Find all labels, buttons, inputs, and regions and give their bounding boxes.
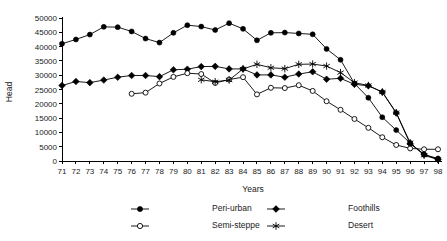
y-axis: 0500010000150002000025000300003500040000… — [35, 14, 62, 166]
data-point — [310, 88, 315, 93]
x-tick-label: 77 — [141, 167, 150, 176]
legend-marker-filled-circle — [137, 206, 142, 211]
data-point — [87, 79, 94, 86]
data-point — [352, 116, 357, 121]
x-tick-label: 73 — [85, 167, 94, 176]
x-tick-label: 82 — [211, 167, 220, 176]
x-tick-label: 94 — [378, 167, 387, 176]
y-tick-label: 15000 — [35, 114, 58, 123]
x-tick-label: 93 — [364, 167, 373, 176]
data-point — [282, 30, 287, 35]
data-point — [100, 77, 107, 84]
x-tick-label: 92 — [350, 167, 359, 176]
y-tick-label: 30000 — [35, 71, 58, 80]
x-tick-label: 91 — [336, 167, 345, 176]
data-point — [171, 74, 176, 79]
data-point — [422, 147, 427, 152]
data-point — [171, 30, 176, 35]
data-point — [114, 74, 121, 81]
x-tick-label: 76 — [127, 167, 136, 176]
x-tick-label: 84 — [239, 167, 248, 176]
data-point — [296, 83, 301, 88]
data-point — [324, 99, 329, 104]
x-tick-label: 87 — [280, 167, 289, 176]
data-point — [254, 61, 260, 68]
data-point — [185, 71, 190, 76]
data-point — [170, 66, 177, 73]
y-tick-label: 45000 — [35, 28, 58, 37]
legend-item-desert: Desert — [267, 220, 374, 230]
series-line — [132, 73, 438, 149]
line-chart: 0500010000150002000025000300003500040000… — [0, 0, 447, 241]
y-tick-label: 35000 — [35, 57, 58, 66]
data-point — [241, 75, 246, 80]
data-point — [338, 107, 343, 112]
x-tick-label: 75 — [113, 167, 122, 176]
series-line — [62, 66, 438, 159]
data-point — [185, 23, 190, 28]
x-tick-label: 71 — [58, 167, 67, 176]
data-point — [241, 26, 246, 31]
x-tick-label: 83 — [225, 167, 234, 176]
data-point — [309, 68, 316, 75]
y-axis-title: Head — [4, 82, 14, 103]
data-point — [394, 142, 399, 147]
legend-marker-filled-diamond — [273, 206, 280, 213]
data-point — [254, 92, 259, 97]
y-tick-label: 20000 — [35, 100, 58, 109]
data-point — [198, 63, 205, 70]
legend-label: Foothills — [348, 203, 380, 213]
data-point — [128, 72, 135, 79]
data-point — [268, 30, 273, 35]
data-point — [157, 81, 162, 86]
data-point — [254, 72, 261, 79]
y-tick-label: 25000 — [35, 86, 58, 95]
x-axis: 7172737475767778798081828384858687888990… — [58, 161, 443, 176]
data-point — [323, 76, 330, 83]
data-point — [366, 95, 371, 100]
legend-label: Desert — [348, 220, 374, 230]
x-tick-label: 79 — [169, 167, 178, 176]
data-point — [338, 57, 343, 62]
data-point — [115, 25, 120, 30]
data-point — [436, 147, 441, 152]
x-tick-label: 97 — [420, 167, 429, 176]
data-point — [226, 66, 233, 73]
data-point — [142, 72, 149, 79]
data-point — [129, 29, 134, 34]
y-tick-label: 5000 — [39, 143, 57, 152]
legend-label: Peri-urban — [212, 203, 252, 213]
data-point — [282, 74, 289, 81]
y-tick-label: 10000 — [35, 128, 58, 137]
legend-item-peri-urban: Peri-urban — [131, 203, 252, 213]
data-point — [60, 41, 65, 46]
x-tick-label: 85 — [253, 167, 262, 176]
x-axis-title: Years — [242, 184, 263, 194]
data-point — [213, 28, 218, 33]
x-tick-label: 72 — [71, 167, 80, 176]
data-point — [212, 63, 219, 70]
x-tick-label: 86 — [266, 167, 275, 176]
y-tick-label: 0 — [53, 157, 58, 166]
y-tick-label: 40000 — [35, 43, 58, 52]
x-tick-label: 96 — [406, 167, 415, 176]
data-point — [143, 90, 148, 95]
legend-item-semi-steppe: Semi-steppe — [131, 220, 260, 230]
data-point — [296, 31, 301, 36]
data-point — [380, 135, 385, 140]
data-point — [157, 40, 162, 45]
data-point — [337, 69, 343, 76]
legend-label: Semi-steppe — [212, 220, 260, 230]
data-point — [199, 24, 204, 29]
x-tick-label: 74 — [99, 167, 108, 176]
data-point — [59, 82, 66, 89]
chart-legend: Peri-urbanFoothillsSemi-steppeDesert — [131, 203, 380, 230]
data-point — [143, 36, 148, 41]
chart-figure: 0500010000150002000025000300003500040000… — [0, 0, 447, 241]
data-point — [101, 24, 106, 29]
data-point — [129, 91, 134, 96]
x-tick-label: 95 — [392, 167, 401, 176]
x-tick-label: 80 — [183, 167, 192, 176]
data-point — [254, 38, 259, 43]
data-point — [408, 146, 413, 151]
